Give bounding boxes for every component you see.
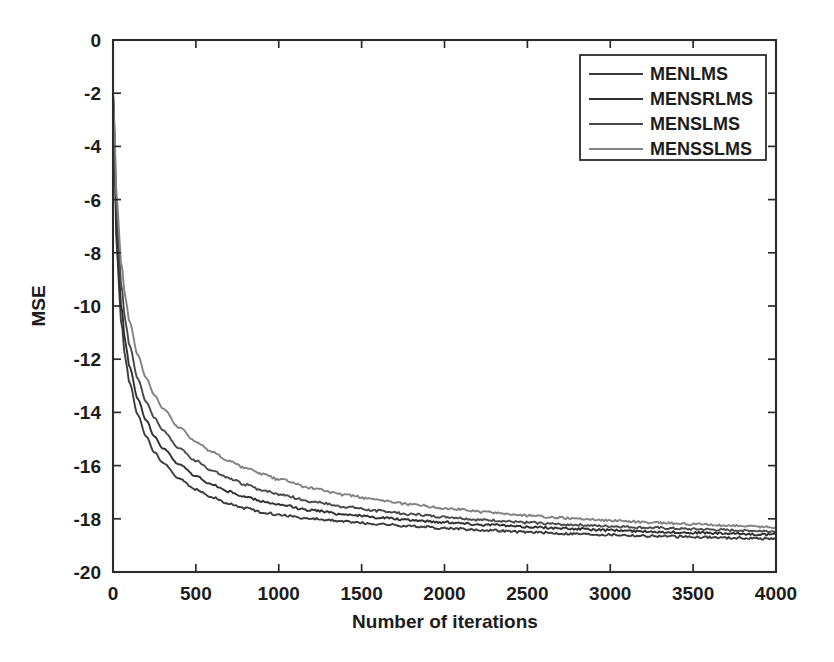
y-tick-label: -4 — [84, 136, 101, 157]
x-axis-title: Number of iterations — [352, 611, 538, 632]
mse-convergence-chart: 05001000150020002500300035004000 0-2-4-6… — [0, 0, 834, 662]
y-tick-label: -18 — [74, 509, 101, 530]
legend-label-menlms: MENLMS — [650, 64, 728, 84]
y-tick-label: -16 — [74, 456, 101, 477]
chart-figure: 05001000150020002500300035004000 0-2-4-6… — [0, 0, 834, 662]
y-tick-label: -10 — [74, 296, 101, 317]
x-tick-label: 2500 — [506, 583, 548, 604]
x-tick-label: 1000 — [258, 583, 300, 604]
y-axis-tick-labels: 0-2-4-6-8-10-12-14-16-18-20 — [74, 30, 102, 583]
y-tick-label: -12 — [74, 349, 101, 370]
legend-label-mensrlms: MENSRLMS — [650, 89, 753, 109]
legend-label-menslms: MENSLMS — [650, 114, 740, 134]
x-tick-label: 0 — [108, 583, 119, 604]
y-tick-label: -20 — [74, 562, 101, 583]
y-tick-label: -14 — [74, 402, 102, 423]
y-tick-label: -2 — [84, 83, 101, 104]
x-tick-label: 3000 — [589, 583, 631, 604]
x-tick-label: 2000 — [423, 583, 465, 604]
x-axis-tick-labels: 05001000150020002500300035004000 — [108, 583, 797, 604]
y-tick-label: -8 — [84, 243, 101, 264]
y-tick-label: -6 — [84, 190, 101, 211]
x-tick-label: 4000 — [755, 583, 797, 604]
x-tick-label: 500 — [180, 583, 212, 604]
legend: MENLMSMENSRLMSMENSLMSMENSSLMS — [580, 55, 766, 160]
y-tick-label: 0 — [90, 30, 101, 51]
legend-label-mensslms: MENSSLMS — [650, 139, 752, 159]
y-axis-title: MSE — [28, 285, 49, 326]
x-tick-label: 1500 — [340, 583, 382, 604]
x-tick-label: 3500 — [672, 583, 714, 604]
